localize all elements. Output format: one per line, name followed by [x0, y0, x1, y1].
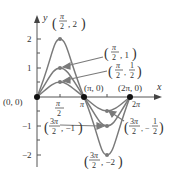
- annotation-pi2-half: ( π 2 , 1 2 ): [108, 61, 142, 80]
- svg-text:2: 2: [52, 127, 56, 136]
- y-tick-neg1: −1: [22, 121, 32, 131]
- label-2pi-zero: (2π, 0): [118, 83, 142, 93]
- svg-text:): ): [81, 16, 86, 32]
- svg-text:1: 1: [153, 117, 157, 126]
- svg-text:π: π: [56, 99, 61, 108]
- svg-text:, −1: , −1: [61, 123, 75, 133]
- annotation-3pi2-neg-half: ( 3π 2 , − 1 2 ): [124, 117, 164, 136]
- x-axis-arrow-icon: [154, 94, 162, 100]
- svg-text:, −2: , −2: [101, 157, 115, 167]
- svg-text:): ): [159, 120, 164, 136]
- svg-text:(: (: [52, 16, 57, 32]
- x-axis-label: x: [156, 81, 162, 92]
- y-tick-1: 1: [27, 63, 32, 73]
- svg-text:, −: , −: [141, 124, 150, 133]
- x-tick-pi-over-2: π 2: [55, 99, 64, 118]
- svg-text:): ): [132, 46, 137, 62]
- sine-graph: y x 2 1 −1 −2 π 2 π 2π (0, 0) (π, 0) (2π…: [0, 0, 180, 186]
- svg-text:3π: 3π: [50, 117, 59, 126]
- svg-text:2: 2: [92, 161, 96, 170]
- svg-text:, 2: , 2: [68, 19, 77, 29]
- y-axis-label: y: [42, 12, 48, 23]
- svg-text:2: 2: [132, 127, 136, 136]
- svg-text:, 1: , 1: [120, 50, 129, 60]
- svg-text:,: ,: [124, 68, 126, 77]
- y-tick-2: 2: [27, 34, 32, 44]
- x-tick-pi: π: [80, 100, 85, 109]
- svg-text:π: π: [112, 43, 117, 52]
- svg-text:): ): [118, 154, 123, 170]
- y-axis-arrow-icon: [34, 15, 40, 23]
- x-tick-2pi: 2π: [132, 100, 141, 109]
- svg-text:2: 2: [60, 22, 64, 31]
- svg-text:2: 2: [153, 127, 157, 136]
- svg-text:π: π: [116, 61, 121, 70]
- svg-text:π: π: [60, 12, 65, 21]
- svg-text:2: 2: [116, 71, 120, 80]
- svg-text:(: (: [84, 154, 89, 170]
- y-tick-neg2: −2: [22, 150, 32, 160]
- annotation-3pi2-neg1: ( 3π 2 , −1 ): [44, 117, 83, 136]
- svg-text:3π: 3π: [130, 117, 139, 126]
- svg-text:): ): [137, 64, 142, 80]
- svg-text:(: (: [104, 46, 109, 62]
- svg-text:): ): [78, 120, 83, 136]
- annotation-pi2-2: ( π 2 , 2 ): [52, 12, 86, 32]
- svg-text:(: (: [124, 120, 129, 136]
- label-pi-zero: (π, 0): [84, 83, 104, 93]
- svg-text:(: (: [108, 64, 113, 80]
- label-origin: (0, 0): [3, 97, 23, 107]
- svg-text:3π: 3π: [90, 151, 99, 160]
- svg-text:2: 2: [130, 71, 134, 80]
- svg-text:(: (: [44, 120, 49, 136]
- annotation-pi2-1: ( π 2 , 1 ): [104, 43, 137, 62]
- svg-text:1: 1: [130, 61, 134, 70]
